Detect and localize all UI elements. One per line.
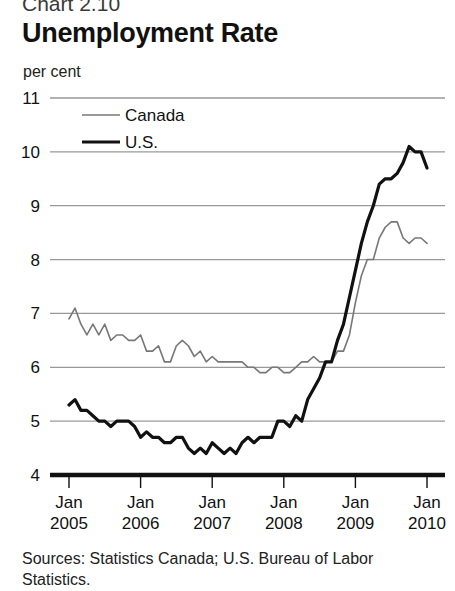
chart-page: Chart 2.10 Unemployment Rate per cent 45… — [0, 0, 455, 591]
y-tick-label: 5 — [31, 412, 40, 431]
y-tick-label: 4 — [31, 466, 40, 485]
x-tick-label-year: 2006 — [122, 514, 160, 533]
x-tick-label-year: 2005 — [50, 514, 88, 533]
y-tick-label: 8 — [31, 251, 40, 270]
y-tick-label: 7 — [31, 304, 40, 323]
y-tick-label: 11 — [22, 89, 40, 108]
series-lines — [69, 146, 427, 453]
x-tick-label-year: 2010 — [408, 514, 446, 533]
gridlines — [50, 98, 445, 421]
x-tick-label-month: Jan — [413, 493, 440, 512]
series-line-us — [69, 146, 427, 453]
x-axis — [50, 475, 445, 488]
y-tick-label: 6 — [31, 358, 40, 377]
x-tick-label-year: 2009 — [336, 514, 374, 533]
x-tick-label-month: Jan — [55, 493, 82, 512]
x-tick-label-month: Jan — [127, 493, 154, 512]
x-tick-label-month: Jan — [342, 493, 369, 512]
x-tick-label-year: 2008 — [265, 514, 303, 533]
legend-label-us: U.S. — [125, 133, 158, 152]
x-tick-label-year: 2007 — [193, 514, 231, 533]
sources-note: Sources: Statistics Canada; U.S. Bureau … — [22, 548, 442, 590]
series-line-canada — [69, 222, 427, 373]
legend-label-canada: Canada — [125, 106, 185, 125]
y-tick-label: 10 — [21, 143, 40, 162]
plot-area: 4567891011 Jan2005Jan2006Jan2007Jan2008J… — [0, 0, 455, 591]
y-tick-labels: 4567891011 — [21, 89, 40, 485]
y-tick-label: 9 — [31, 197, 40, 216]
chart-legend: CanadaU.S. — [82, 106, 185, 152]
x-tick-labels: Jan2005Jan2006Jan2007Jan2008Jan2009Jan20… — [50, 493, 446, 533]
x-tick-label-month: Jan — [198, 493, 225, 512]
chart-svg: 4567891011 Jan2005Jan2006Jan2007Jan2008J… — [0, 0, 455, 591]
x-tick-label-month: Jan — [270, 493, 297, 512]
